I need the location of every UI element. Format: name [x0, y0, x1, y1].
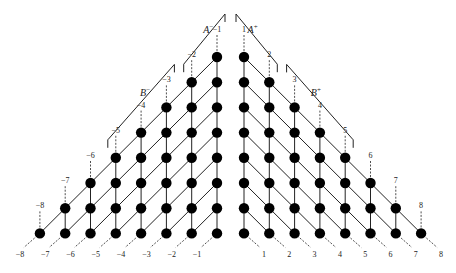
node — [239, 127, 249, 137]
node — [111, 153, 121, 163]
diagonal-edge — [91, 183, 116, 208]
diagonal-edge — [295, 158, 320, 183]
node — [136, 153, 146, 163]
node — [111, 203, 121, 213]
top-label: 2 — [267, 50, 271, 59]
diagonal-edge — [345, 183, 370, 208]
dashed-stems — [24, 35, 437, 247]
diagonal-edge — [141, 133, 166, 158]
top-label: −7 — [61, 176, 70, 185]
set-label: B+ — [311, 86, 321, 98]
node — [187, 77, 197, 87]
node — [289, 228, 299, 238]
top-label: −2 — [187, 50, 196, 59]
diagonal-edge — [345, 208, 370, 233]
diagonal-edge — [244, 107, 269, 132]
node — [340, 228, 350, 238]
bottom-label: 2 — [287, 250, 291, 259]
node — [391, 228, 401, 238]
diagonal-edge — [166, 208, 191, 233]
diagonal-edge — [141, 208, 166, 233]
diagonal-edge — [40, 208, 65, 233]
diagonal-edge — [244, 158, 269, 183]
node — [187, 153, 197, 163]
node — [365, 178, 375, 188]
node — [136, 178, 146, 188]
diagonal-edge — [244, 133, 269, 158]
diagonal-edge — [269, 107, 294, 132]
node — [136, 127, 146, 137]
node — [187, 127, 197, 137]
diagonal-edge — [269, 208, 294, 233]
diagonal-edge — [192, 183, 217, 208]
bottom-label: −3 — [142, 250, 151, 259]
bottom-label: 5 — [363, 250, 367, 259]
node — [264, 77, 274, 87]
diagonal-edge — [192, 133, 217, 158]
node — [111, 178, 121, 188]
node — [315, 127, 325, 137]
diagonal-edge — [371, 183, 396, 208]
node — [212, 127, 222, 137]
node — [315, 228, 325, 238]
node — [340, 178, 350, 188]
node — [289, 178, 299, 188]
node — [239, 228, 249, 238]
diagonal-edge — [269, 82, 294, 107]
node — [187, 228, 197, 238]
bottom-label: −4 — [117, 250, 126, 259]
diagonal-edge — [192, 82, 217, 107]
node — [239, 77, 249, 87]
top-label: −6 — [86, 151, 95, 160]
top-label: −3 — [162, 75, 171, 84]
lattice-diagram: A−B−A+B+ −1−1−2−2−3−3−4−4−5−5−6−6−7−7−8−… — [0, 0, 456, 273]
node — [239, 102, 249, 112]
bottom-label: 3 — [313, 250, 317, 259]
node — [365, 228, 375, 238]
diagonal-edge — [269, 133, 294, 158]
node — [161, 178, 171, 188]
bottom-label: −7 — [41, 250, 50, 259]
diagonal-edge — [141, 183, 166, 208]
bottom-label: 7 — [414, 250, 418, 259]
diagonal-edge — [141, 158, 166, 183]
node — [187, 178, 197, 188]
diagonal-edge — [166, 183, 191, 208]
top-label: −8 — [36, 201, 45, 210]
diagonal-edge — [244, 82, 269, 107]
diagonal-edge — [116, 208, 141, 233]
bottom-label: 1 — [262, 250, 266, 259]
node — [212, 153, 222, 163]
node — [187, 102, 197, 112]
top-label: 4 — [318, 101, 322, 110]
top-label: −4 — [137, 101, 146, 110]
top-label: 6 — [369, 151, 373, 160]
diagonal-edge — [91, 158, 116, 183]
diagonal-edge — [244, 183, 269, 208]
node — [60, 203, 70, 213]
diagonal-edge — [166, 107, 191, 132]
node — [264, 102, 274, 112]
node — [289, 203, 299, 213]
diagonal-edge — [320, 183, 345, 208]
node — [35, 228, 45, 238]
node — [212, 77, 222, 87]
node — [161, 127, 171, 137]
top-label: 5 — [343, 126, 347, 135]
node — [136, 228, 146, 238]
node — [315, 153, 325, 163]
diagonal-edge — [320, 158, 345, 183]
node — [264, 127, 274, 137]
diagonal-edge — [141, 107, 166, 132]
diagonal-edge — [320, 208, 345, 233]
bottom-label: 6 — [389, 250, 393, 259]
diagonal-edge — [192, 158, 217, 183]
diagonal-edge — [269, 183, 294, 208]
bottom-label: −1 — [193, 250, 202, 259]
diagonal-edge — [116, 158, 141, 183]
diagonal-edge — [371, 208, 396, 233]
node — [416, 228, 426, 238]
bracket-line — [184, 14, 225, 72]
node — [239, 52, 249, 62]
diagonal-edge — [65, 208, 90, 233]
